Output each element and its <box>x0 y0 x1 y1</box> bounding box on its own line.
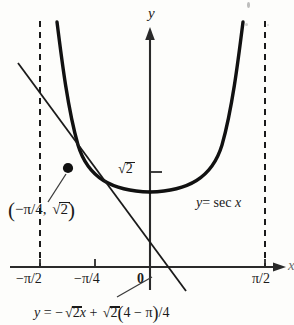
eq-divisor: /4 <box>159 305 170 320</box>
secant-label-x: x <box>235 195 241 210</box>
eq-plus-sign: + <box>89 305 97 320</box>
point-y-radicand: 2 <box>60 202 68 217</box>
x-tick-label-half-pi: π/2 <box>252 272 270 286</box>
eq-inner-expression: 4 − π <box>124 305 153 320</box>
eq-negative-sign: − <box>55 305 63 320</box>
eq-lhs: y <box>34 305 40 320</box>
point-label-leader-line <box>48 174 66 202</box>
graph-canvas <box>0 0 294 325</box>
radical-sign: √ <box>50 201 60 217</box>
origin-label: 0 <box>137 272 144 286</box>
paren-open: ( <box>8 198 15 222</box>
scan-speck <box>267 24 269 26</box>
point-x-value: −π/4, <box>15 201 46 217</box>
x-axis-arrowhead <box>273 262 286 271</box>
tangent-line-equation: y = −√ 2 x + √ 2 (4 − π)/4 <box>34 304 169 322</box>
x-axis-label: x <box>288 258 294 273</box>
scan-speck <box>245 23 248 26</box>
eq-radicand-2: 2 <box>111 306 118 320</box>
math-figure: y x −π/2 −π/4 0 π/2 √ 2 y= sec x (−π/4, … <box>0 0 294 325</box>
radicand: 2 <box>126 162 133 176</box>
tangency-point-label: (−π/4, √ 2 ) <box>8 200 75 221</box>
tangent-equation-leader-line <box>117 277 152 297</box>
eq-variable: x <box>80 305 86 320</box>
tangent-line-stroke <box>18 63 186 291</box>
radical-sign: √ <box>116 161 126 176</box>
y-axis-arrowhead <box>145 27 155 40</box>
secant-curve-label: y= sec x <box>196 196 241 210</box>
secant-label-eq: = sec <box>202 195 231 210</box>
x-tick-label-neg-quarter-pi: −π/4 <box>74 272 100 286</box>
x-tick-label-neg-half-pi: −π/2 <box>16 272 42 286</box>
scan-speck <box>247 2 250 8</box>
secant-curve-right-branch <box>150 22 243 192</box>
radical-sign-2: √ <box>101 305 111 320</box>
radical-sign-1: √ <box>63 305 73 320</box>
y-tick-label-sqrt2: √ 2 <box>116 162 133 176</box>
y-axis-label: y <box>148 6 155 21</box>
tangency-point-dot <box>63 163 73 173</box>
eq-relation: = <box>44 305 52 320</box>
eq-radicand-1: 2 <box>73 306 80 320</box>
